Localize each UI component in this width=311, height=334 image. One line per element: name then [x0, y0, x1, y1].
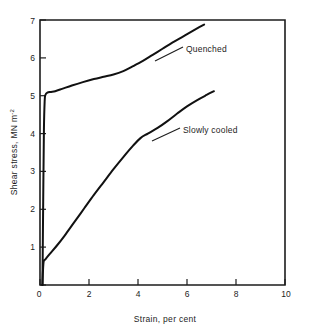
x-tick-label-4: 4: [136, 289, 141, 299]
series-label-quenched: Quenched: [186, 44, 227, 54]
y-tick-label-4: 4: [30, 129, 35, 139]
y-tick-label-7: 7: [30, 16, 35, 26]
y-tick-label-3: 3: [30, 166, 35, 176]
x-tick-label-10: 10: [281, 289, 291, 299]
x-tick-label-2: 2: [87, 289, 92, 299]
leader-line-quenched: [155, 47, 183, 61]
x-tick-label-6: 6: [185, 289, 190, 299]
annotation-leaders: [152, 47, 183, 141]
y-tick-label-2: 2: [30, 204, 35, 214]
y-axis-title-exponent: -2: [9, 108, 15, 114]
chart-figure: 1 2 3 4 5 6 7 0 2 4 6 8 10: [0, 0, 311, 334]
stress-strain-chart: 1 2 3 4 5 6 7 0 2 4 6 8 10: [0, 0, 311, 334]
y-tick-label-5: 5: [30, 91, 35, 101]
plot-frame: [40, 20, 285, 285]
series-curve-quenched: [42, 25, 204, 285]
y-axis-tick-labels: 1 2 3 4 5 6 7: [30, 16, 35, 253]
data-series-group: [42, 25, 214, 285]
y-axis-title: Shear stress, MN m-2: [9, 108, 20, 195]
x-axis-title: Strain, per cent: [134, 314, 197, 324]
series-label-slowly-cooled: Slowly cooled: [183, 125, 238, 135]
y-tick-label-6: 6: [30, 53, 35, 63]
y-axis-title-text: Shear stress, MN m: [9, 115, 19, 196]
x-tick-label-0: 0: [37, 289, 42, 299]
x-axis-tick-labels: 0 2 4 6 8 10: [37, 289, 291, 299]
series-curve-slowly-cooled: [42, 91, 214, 285]
y-tick-label-1: 1: [30, 242, 35, 252]
leader-line-slowly-cooled: [152, 128, 180, 141]
x-tick-label-8: 8: [234, 289, 239, 299]
x-axis-ticks: [40, 279, 285, 285]
series-annotations: Quenched Slowly cooled: [183, 44, 238, 135]
svg-text:Shear stress, MN m-2: Shear stress, MN m-2: [9, 108, 20, 195]
axis-frame-path: [40, 20, 285, 285]
